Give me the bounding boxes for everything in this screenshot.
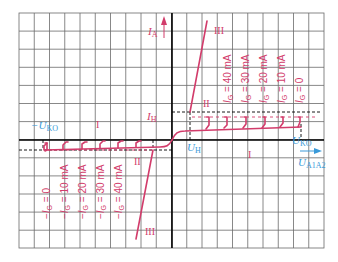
triac-characteristic-diagram: IA UKO UA1A2 −UKO IH UH bbox=[0, 0, 338, 262]
region-label-upper-III: III bbox=[214, 25, 224, 36]
region-label-upper-I: I bbox=[248, 149, 251, 160]
region-label-lower-II: II bbox=[134, 156, 141, 167]
holding-voltage-label: UH bbox=[187, 141, 201, 155]
gate-label-pos-40: IG = 40 mA bbox=[222, 54, 234, 103]
gate-label-pos-30: IG = 30 mA bbox=[240, 54, 252, 103]
gate-label-pos-10: IG = 10 mA bbox=[276, 54, 288, 103]
gate-label-neg-30: −IG = 30 mA bbox=[95, 164, 107, 219]
region-label-lower-III: III bbox=[145, 226, 155, 237]
holding-current-label: IH bbox=[146, 110, 157, 124]
upper-forward-blocking-curve bbox=[172, 127, 301, 140]
gate-label-neg-0: −IG = 0 bbox=[41, 188, 53, 219]
gate-label-pos-20: IG = 20 mA bbox=[258, 54, 270, 103]
gate-label-neg-10: −IG = 10 mA bbox=[59, 164, 71, 219]
gate-label-pos-0: IG = 0 bbox=[294, 77, 306, 103]
region-label-upper-II: II bbox=[203, 98, 210, 109]
neg-breakover-voltage-label: −UKO bbox=[31, 119, 58, 133]
negative-gate-current-labels: −IG = 0 −IG = 10 mA −IG = 20 mA −IG = 30… bbox=[41, 164, 125, 219]
y-axis-arrow-icon bbox=[161, 16, 167, 38]
gate-label-neg-40: −IG = 40 mA bbox=[113, 164, 125, 219]
region-label-lower-I: I bbox=[96, 119, 99, 130]
gate-label-neg-20: −IG = 20 mA bbox=[77, 164, 89, 219]
x-axis-arrow-icon bbox=[300, 148, 322, 154]
